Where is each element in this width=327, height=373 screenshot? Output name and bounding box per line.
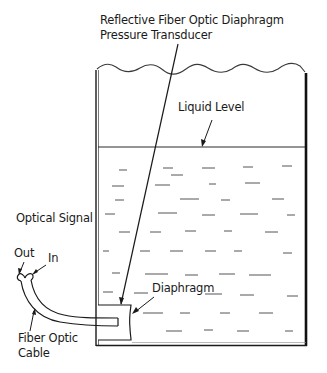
liquid-level-diagram [0,0,327,373]
out-label: Out [14,246,34,261]
transducer-label-line1: Reflective Fiber Optic Diaphragm [100,13,284,28]
fiber-optic-cable-label: Fiber Optic Cable [18,331,78,361]
cable-label-line2: Cable [18,346,78,361]
cable-split-out [17,274,25,281]
liquid-level-label: Liquid Level [178,100,244,115]
transducer-pointer-line [121,44,178,304]
transducer-body [98,305,131,340]
diaphragm-arrowhead [132,307,139,314]
transducer-housing [98,305,131,340]
tank-top-wave [97,64,305,74]
liquid-dashes [103,166,298,331]
transducer-label-line2: Pressure Transducer [100,28,284,43]
transducer-arrowhead [119,297,124,305]
transducer-label: Reflective Fiber Optic Diaphragm Pressur… [100,13,284,43]
in-label: In [48,251,58,266]
cable-split-in [25,274,33,280]
cable-label-line1: Fiber Optic [18,331,78,346]
liquid-level-arrowhead [201,139,206,147]
diaphragm-label: Diaphragm [152,281,214,296]
optical-signal-label: Optical Signal [16,211,93,226]
in-arrowhead [32,269,38,275]
